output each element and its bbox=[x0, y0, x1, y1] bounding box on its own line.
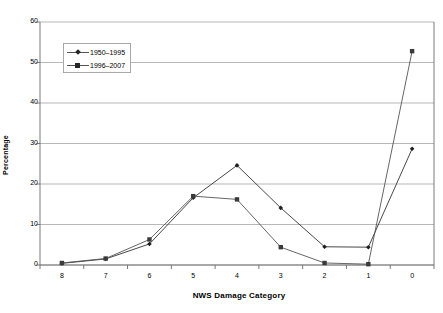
data-point-marker bbox=[191, 194, 195, 198]
data-point-marker bbox=[322, 261, 326, 265]
data-point-marker bbox=[279, 245, 283, 249]
legend: 1950–1995 1996–2007 bbox=[63, 43, 131, 73]
legend-label-series-2: 1996–2007 bbox=[89, 62, 125, 69]
data-point-marker bbox=[410, 49, 414, 53]
data-point-marker bbox=[103, 256, 107, 260]
legend-square-marker-icon bbox=[67, 60, 89, 72]
legend-item-series-1: 1950–1995 bbox=[64, 46, 130, 59]
legend-item-series-2: 1996–2007 bbox=[64, 59, 130, 72]
data-point-marker bbox=[366, 262, 370, 266]
legend-diamond-marker-icon bbox=[67, 47, 89, 59]
data-point-marker bbox=[235, 197, 239, 201]
series-line-2 bbox=[62, 51, 412, 264]
data-point-marker bbox=[60, 261, 64, 265]
chart-container: Percentage NWS Damage Category 010203040… bbox=[0, 0, 443, 313]
data-point-marker bbox=[410, 146, 415, 151]
legend-label-series-1: 1950–1995 bbox=[89, 49, 125, 56]
data-point-marker bbox=[366, 245, 371, 250]
data-point-marker bbox=[147, 237, 151, 241]
